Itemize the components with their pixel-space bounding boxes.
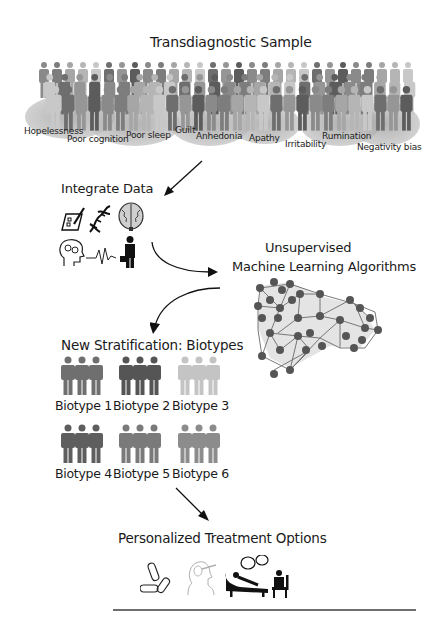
treatment-icons [140,555,300,599]
sample-title: Transdiagnostic Sample [150,34,312,50]
biotype-group: Biotype 2 [113,356,173,413]
symptom-label-apathy: Apathy [249,133,280,143]
symptom-label-poor-sleep: Poor sleep [126,130,171,140]
biotype-label: Biotype 1 [55,398,115,413]
biotype-group: Biotype 6 [172,424,232,481]
arrow-stratification-to-treatment [174,486,214,526]
symptom-label-poor-cognition: Poor cognition [67,134,129,144]
biotype-label: Biotype 6 [172,466,232,481]
psychotherapy-icon [226,555,289,598]
biotype-group: Biotype 5 [113,424,173,481]
people-group-icon [59,424,105,464]
people-group-icon [117,424,163,464]
people-group-icon [176,424,222,464]
bottom-divider [113,609,416,611]
symptom-label-guilt: Guilt [175,125,195,135]
heartbeat-icon [86,248,116,264]
arrow-sample-to-integrate [160,158,210,198]
people-group-icon [59,356,105,396]
biotype-label: Biotype 5 [113,466,173,481]
symptom-label-irritability: Irritability [285,139,326,149]
person-briefcase-icon [120,236,135,268]
symptom-label-negativity-bias: Negativity bias [357,142,422,152]
integrate-title: Integrate Data [61,181,153,196]
biotype-group: Biotype 4 [55,424,115,481]
arrow-ml-to-stratification [150,286,225,336]
clipboard-pen-icon [62,208,84,230]
treatment-title: Personalized Treatment Options [118,530,326,546]
ml-title-line1: Unsupervised [265,240,351,255]
biotype-group: Biotype 1 [55,356,115,413]
stratification-title: New Stratification: Biotypes [61,337,243,353]
biotype-group: Biotype 3 [172,356,232,413]
symptom-label-anhedonia: Anhedonia [196,131,242,141]
integrate-icons [58,202,148,270]
people-group-icon [117,356,163,396]
arrow-integrate-to-ml [148,240,223,280]
brain-stimulation-icon [188,562,216,595]
brain-icon [119,203,143,231]
pills-icon [140,562,171,594]
network-graph [250,278,400,378]
ml-title-line2: Machine Learning Algorithms [232,259,416,274]
symptom-label-rumination: Rumination [322,131,371,141]
dna-icon [90,206,110,232]
biotype-label: Biotype 3 [172,398,232,413]
biotype-label: Biotype 4 [55,466,115,481]
biotype-label: Biotype 2 [113,398,173,413]
people-group-icon [176,356,222,396]
head-gears-icon [60,240,84,266]
